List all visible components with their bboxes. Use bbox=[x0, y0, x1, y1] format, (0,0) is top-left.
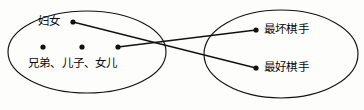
worst-player-node bbox=[253, 27, 258, 32]
brother-node bbox=[40, 44, 45, 49]
label-kin: 兄弟、儿子、女儿 bbox=[28, 58, 118, 70]
left-ellipse bbox=[8, 11, 166, 93]
best-player-node bbox=[253, 65, 258, 70]
label-best-player: 最好棋手 bbox=[264, 62, 309, 74]
son-node bbox=[79, 44, 84, 49]
label-women: 妇女 bbox=[38, 16, 60, 28]
daughter-node bbox=[115, 44, 120, 49]
label-worst-player: 最坏棋手 bbox=[264, 24, 309, 36]
mapping-diagram: 妇女 兄弟、儿子、女儿 最坏棋手 最好棋手 bbox=[0, 0, 364, 110]
women-node bbox=[70, 19, 75, 24]
